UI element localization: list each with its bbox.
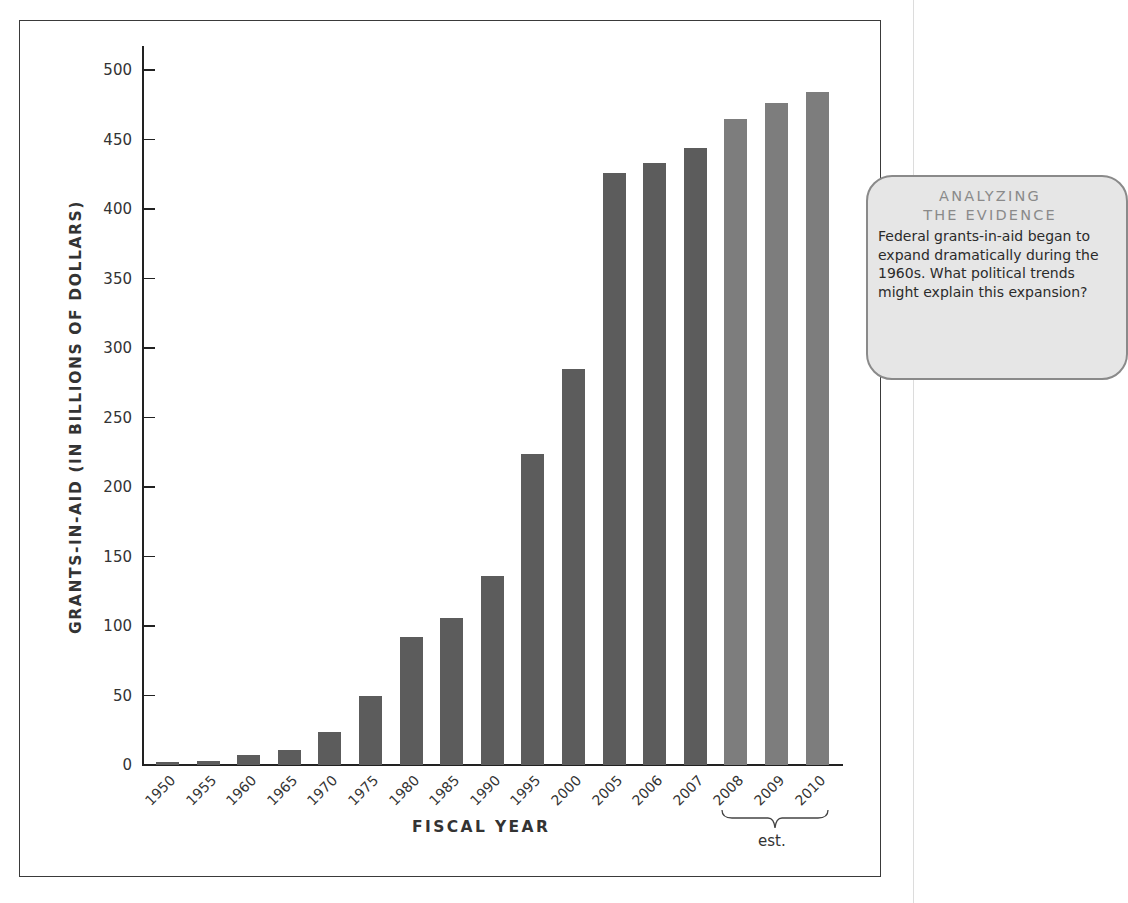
estimate-brace-icon <box>720 808 830 832</box>
y-tick-label: 0 <box>72 756 132 774</box>
bar-2010 <box>806 92 829 765</box>
y-tick-label: 100 <box>72 617 132 635</box>
bar-2007 <box>684 148 707 765</box>
bar-1980 <box>400 637 423 765</box>
callout-heading-line1: ANALYZING <box>878 187 1126 206</box>
callout-heading-line2: THE EVIDENCE <box>878 206 1126 225</box>
bar-1965 <box>278 750 301 765</box>
bar-1970 <box>318 732 341 765</box>
bar-2008 <box>724 119 747 765</box>
bar-1955 <box>197 761 220 765</box>
bar-1975 <box>359 696 382 766</box>
bar-1990 <box>481 576 504 765</box>
y-tick <box>143 695 155 697</box>
y-tick <box>143 139 155 141</box>
bar-1985 <box>440 618 463 765</box>
y-tick-label: 150 <box>72 548 132 566</box>
y-tick-label: 50 <box>72 687 132 705</box>
y-tick <box>143 69 155 71</box>
y-tick <box>143 347 155 349</box>
bar-2009 <box>765 103 788 765</box>
bar-1950 <box>156 762 179 765</box>
bar-2006 <box>643 163 666 765</box>
bar-2000 <box>562 369 585 765</box>
y-tick <box>143 278 155 280</box>
y-tick-label: 400 <box>72 200 132 218</box>
y-tick-label: 200 <box>72 478 132 496</box>
bar-1960 <box>237 755 260 765</box>
y-axis <box>142 46 144 766</box>
y-tick <box>143 417 155 419</box>
callout-body: Federal grants-in-aid began to expand dr… <box>878 227 1118 301</box>
y-tick <box>143 486 155 488</box>
y-tick <box>143 556 155 558</box>
estimate-label: est. <box>758 832 786 850</box>
analyzing-evidence-callout: ANALYZING THE EVIDENCE Federal grants-in… <box>866 175 1128 380</box>
y-tick-label: 350 <box>72 270 132 288</box>
bar-1995 <box>521 454 544 765</box>
y-tick-label: 300 <box>72 339 132 357</box>
x-axis-title: FISCAL YEAR <box>412 818 550 836</box>
y-tick-label: 500 <box>72 61 132 79</box>
y-tick-label: 250 <box>72 409 132 427</box>
y-tick-label: 450 <box>72 131 132 149</box>
y-tick <box>143 208 155 210</box>
y-tick <box>143 625 155 627</box>
y-tick <box>143 764 155 766</box>
sidebar-divider <box>913 0 914 903</box>
bar-2005 <box>603 173 626 765</box>
